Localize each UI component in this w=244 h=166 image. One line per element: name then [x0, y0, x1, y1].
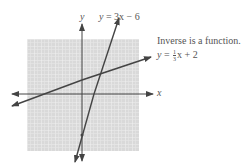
line1-label: y = 3x − 6: [99, 11, 140, 22]
x-axis-label: x: [157, 87, 161, 98]
y-intercept-point: [81, 134, 84, 137]
line2-lhs: y: [157, 49, 161, 60]
line1-lhs: y: [99, 11, 103, 22]
fraction-den: 3: [173, 56, 176, 62]
line2-eq: =: [164, 49, 170, 60]
fraction-num: 1: [173, 49, 176, 56]
line2-rest: x + 2: [177, 49, 198, 60]
graph: [0, 0, 244, 166]
fraction: 13: [173, 49, 176, 62]
line1-rhs: = 3x − 6: [106, 11, 140, 22]
caption: Inverse is a function.: [157, 35, 241, 46]
y-axis-label: y: [80, 11, 84, 22]
line2-label: y = 13x + 2: [157, 49, 198, 62]
